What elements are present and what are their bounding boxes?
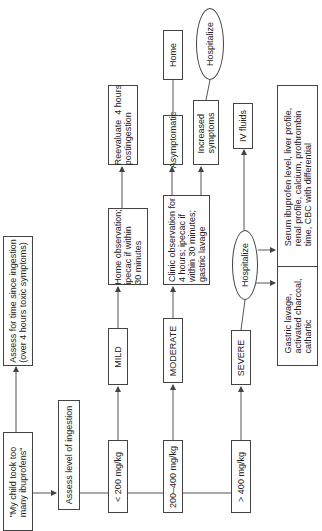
moderate-text: MODERATE [168, 325, 178, 375]
reevaluate-box: Reevaluate 4 hours postingestion [108, 85, 138, 165]
home-text: Home [168, 43, 178, 67]
start-text: "My child took too many ibuprofens" [8, 446, 28, 517]
start-box: "My child took too many ibuprofens" [3, 432, 33, 531]
range-mid-box: 200–400 mg/kg [163, 440, 183, 513]
home-observation-text: Home observation; ipecac if within 30 mi… [113, 209, 143, 285]
iv-fluids-box: IV fluids [233, 103, 253, 149]
severe-box: SEVERE [231, 330, 251, 385]
mild-box: MILD [108, 328, 128, 385]
reevaluate-text: Reevaluate 4 hours postingestion [113, 85, 133, 166]
serum-tests-box: Serum ibuprofen level, liver profile, re… [277, 85, 318, 268]
assess-level-box: Assess level of ingestion [58, 400, 80, 510]
increased-symptoms-box: Increased symptoms [193, 100, 219, 165]
assess-level-text: Assess level of ingestion [64, 406, 74, 505]
range-high-box: > 400 mg/kg [231, 440, 251, 513]
hospitalize-severe-oval: Hospitalize [232, 230, 258, 300]
home-observation-box: Home observation; ipecac if within 30 mi… [108, 208, 148, 285]
assess-time-text: Assess for time since ingestion (over 4 … [8, 239, 28, 363]
range-low-text: < 200 mg/kg [113, 452, 123, 502]
range-low-box: < 200 mg/kg [108, 440, 128, 513]
gastric-lavage-box: Gastric lavage, activated charcoal, cath… [277, 266, 318, 366]
clinic-observation-box: Clinic observation for 4 hours; ipecac i… [163, 195, 210, 285]
range-high-text: > 400 mg/kg [236, 452, 246, 502]
severe-text: SEVERE [236, 339, 246, 376]
clinic-observation-text: Clinic observation for 4 hours; ipecac i… [167, 198, 207, 282]
iv-fluids-text: IV fluids [238, 110, 248, 142]
hospitalize-top-oval: Hospitalize [196, 8, 224, 80]
mild-text: MILD [113, 346, 123, 368]
range-mid-text: 200–400 mg/kg [168, 445, 178, 507]
home-box: Home [163, 30, 183, 80]
hospitalize-severe-text: Hospitalize [240, 243, 250, 287]
connector-lines [0, 0, 322, 531]
asymptomatic-box: Asymptomatic [163, 115, 183, 165]
moderate-box: MODERATE [163, 318, 183, 383]
serum-tests-text: Serum ibuprofen level, liver profile, re… [283, 107, 313, 246]
gastric-lavage-text: Gastric lavage, activated charcoal, cath… [283, 278, 313, 353]
increased-symptoms-text: Increased symptoms [196, 112, 216, 153]
hospitalize-top-text: Hospitalize [205, 22, 215, 66]
assess-time-box: Assess for time since ingestion (over 4 … [3, 236, 33, 366]
asymptomatic-text: Asymptomatic [168, 112, 178, 169]
